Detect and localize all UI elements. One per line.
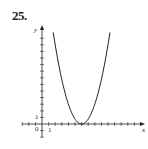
parabola-graph: y x 1 1 0	[0, 0, 148, 149]
parabola-curve	[53, 32, 110, 124]
x-axis-label: x	[141, 126, 146, 134]
origin-label: 0	[35, 125, 39, 133]
x-tick-label-1: 1	[48, 126, 52, 134]
y-tick-label-1: 1	[35, 113, 39, 121]
axes	[22, 25, 145, 137]
y-axis-label: y	[33, 26, 38, 34]
